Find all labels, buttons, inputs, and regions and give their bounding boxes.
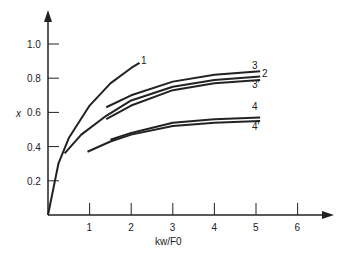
series-label: 4' <box>252 121 260 132</box>
x-axis-arrow-icon <box>322 211 334 219</box>
series-label: 2 <box>262 68 268 79</box>
series-label: 1 <box>141 55 147 66</box>
series-label: 4 <box>252 101 258 112</box>
series-label: 3 <box>252 60 258 71</box>
chart: 0.20.40.60.81.0123456 x kw/F0 1233'44' <box>0 0 342 257</box>
x-tick-label: 5 <box>253 222 259 233</box>
curve-2 <box>65 76 261 153</box>
x-tick-label: 2 <box>128 222 134 233</box>
y-tick-label: 0.8 <box>27 73 41 84</box>
x-tick-label: 4 <box>211 222 217 233</box>
y-tick-label: 0.6 <box>27 107 41 118</box>
y-axis-arrow-icon <box>44 10 52 22</box>
x-axis-label: kw/F0 <box>155 236 182 247</box>
x-tick-label: 3 <box>170 222 176 233</box>
x-tick-label: 1 <box>87 222 93 233</box>
curve-4' <box>88 121 261 152</box>
y-tick-label: 0.2 <box>27 176 41 187</box>
curve-1 <box>48 63 140 215</box>
chart-plot: 0.20.40.60.81.0123456 x kw/F0 1233'44' <box>0 0 342 257</box>
y-tick-label: 1.0 <box>27 39 41 50</box>
y-tick-label: 0.4 <box>27 142 41 153</box>
x-tick-label: 6 <box>295 222 301 233</box>
series-label: 3' <box>252 79 260 90</box>
y-axis-label: x <box>15 108 22 119</box>
